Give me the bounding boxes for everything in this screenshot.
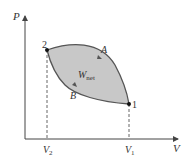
path-a-label: A: [100, 44, 108, 55]
v1-tick-label: V1: [125, 144, 135, 157]
pv-diagram: P V 2 1 A B Wnet V2 V1: [0, 0, 189, 166]
state-point-1: [127, 102, 131, 106]
path-b-label: B: [70, 90, 76, 101]
y-axis-label: P: [12, 10, 20, 22]
point-2-label: 2: [42, 39, 47, 50]
v2-tick-label: V2: [43, 144, 53, 157]
x-axis-label: V: [173, 142, 181, 154]
point-1-label: 1: [132, 99, 137, 110]
